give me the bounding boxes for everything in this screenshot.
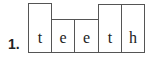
letter-box-2: e [51,19,75,53]
letter-box-3: e [74,19,99,53]
letter: t [29,30,51,46]
item-number: 1. [8,37,20,51]
letter: t [99,30,121,46]
letter: e [75,30,98,46]
letter-box-5: h [121,4,145,53]
letter-box-4: t [98,4,122,53]
letter: h [122,30,144,46]
letter-box-1: t [28,3,52,53]
letter: e [52,30,74,46]
